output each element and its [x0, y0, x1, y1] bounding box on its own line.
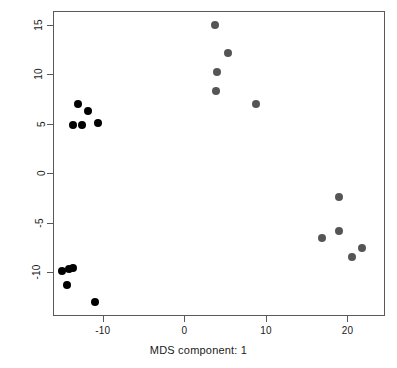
x-axis-tick-label: 20 [342, 325, 354, 336]
mds-scatter-plot: -1001020 151050-5-10 MDS component: 1 MD… [0, 0, 397, 368]
y-axis-tick-label: 0 [38, 168, 44, 179]
y-axis-tick-label: 5 [38, 118, 44, 129]
x-axis-tick [184, 316, 185, 322]
y-axis-tick [47, 124, 53, 125]
x-axis-tick [347, 316, 348, 322]
x-axis-tick [103, 316, 104, 322]
x-axis-tick-label: -10 [95, 325, 110, 336]
y-axis-tick [47, 173, 53, 174]
y-axis-tick [47, 272, 53, 273]
plot-frame [53, 11, 385, 316]
y-axis-tick-label-text: 5 [36, 121, 47, 127]
y-axis-title-wrapper: MDS component: 2 [20, 11, 36, 316]
x-axis-title: MDS component: 1 [0, 344, 397, 356]
y-axis-tick [47, 74, 53, 75]
y-axis-tick-label: -5 [35, 217, 44, 228]
y-axis-tick [47, 25, 53, 26]
x-axis-tick-label: 10 [260, 325, 272, 336]
y-axis-tick [47, 223, 53, 224]
x-axis-tick [266, 316, 267, 322]
x-axis-tick-label: 0 [181, 325, 187, 336]
y-axis-tick-label-text: 0 [36, 171, 47, 177]
